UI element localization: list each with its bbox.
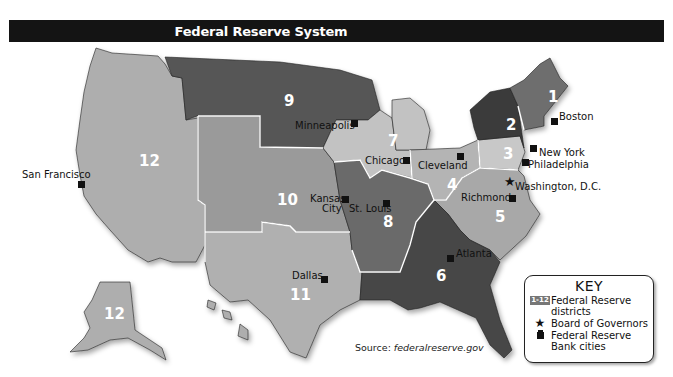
district-number-4: 4 [447, 176, 457, 194]
hawaii [207, 300, 248, 340]
city-label-atlanta: Atlanta [456, 248, 492, 259]
city-label-minneapolis: Minneapolis [295, 120, 355, 131]
city-label-kansas-city-line2: City [322, 203, 342, 214]
city-label-washington-dc: Washington, D.C. [515, 181, 601, 192]
district-number-3: 3 [503, 145, 513, 163]
city-label-richmond: Richmond [461, 192, 511, 203]
bank-icon-cleveland [457, 153, 464, 160]
district-number-6: 6 [436, 267, 446, 285]
district-11 [205, 222, 362, 358]
district-number-12-alaska: 12 [104, 305, 125, 323]
district-number-7: 7 [388, 132, 398, 150]
star-icon: ★ [535, 318, 546, 329]
district-number-9: 9 [284, 92, 294, 110]
district-number-10: 10 [277, 191, 298, 209]
city-label-cleveland: Cleveland [418, 160, 468, 171]
district-number-5: 5 [495, 208, 505, 226]
key-item-board-of-governors: ★ Board of Governors [525, 318, 653, 329]
bank-icon-new-york [530, 145, 537, 152]
bank-icon-boston [551, 118, 558, 125]
source-text: Source: federalreserve.gov [355, 342, 484, 353]
city-label-st-louis: St. Louis [349, 203, 391, 214]
key-item-districts: 1-12 Federal Reservedistricts [525, 295, 653, 317]
key-item-bank-cities: Federal ReserveBank cities [525, 330, 653, 352]
district-number-11: 11 [290, 286, 311, 304]
district-3 [478, 136, 525, 170]
district-number-1: 1 [548, 88, 558, 106]
city-label-philadelphia: Philadelphia [528, 159, 589, 170]
city-label-san-francisco: San Francisco [22, 169, 91, 180]
district-number-2: 2 [506, 116, 516, 134]
city-label-chicago: Chicago [365, 155, 405, 166]
bank-building-icon [537, 332, 544, 339]
city-label-boston: Boston [559, 111, 594, 122]
board-of-governors-star-icon: ★ [504, 174, 516, 189]
bank-icon-atlanta [447, 255, 454, 262]
key-title: KEY [525, 278, 653, 294]
district-range-badge-icon: 1-12 [530, 296, 550, 305]
bank-icon-san-francisco [78, 181, 85, 188]
district-number-8: 8 [383, 213, 393, 231]
city-label-dallas: Dallas [292, 270, 323, 281]
city-label-new-york: New York [539, 147, 585, 158]
district-number-12: 12 [139, 152, 160, 170]
map-key: KEY 1-12 Federal Reservedistricts ★ Boar… [524, 275, 654, 363]
